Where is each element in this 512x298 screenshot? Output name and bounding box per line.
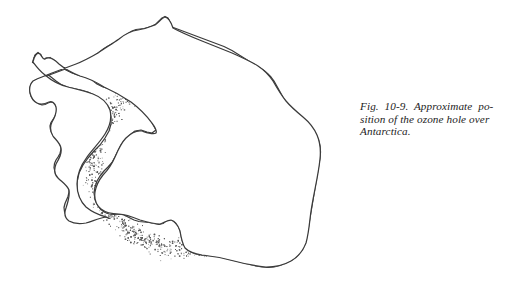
figure-page: Fig. 10-9. Approximate po- sition of the… [0, 0, 512, 298]
figure-caption: Fig. 10-9. Approximate po- sition of the… [360, 100, 506, 138]
caption-line-1: Fig. 10-9. Approximate po- [360, 100, 506, 113]
caption-line-3: Antarctica. [360, 125, 506, 138]
antarctica-map [0, 0, 352, 298]
antarctica-coastline-main [30, 17, 321, 267]
caption-line-2: sition of the ozone hole over [360, 113, 506, 126]
map-svg [0, 0, 352, 298]
